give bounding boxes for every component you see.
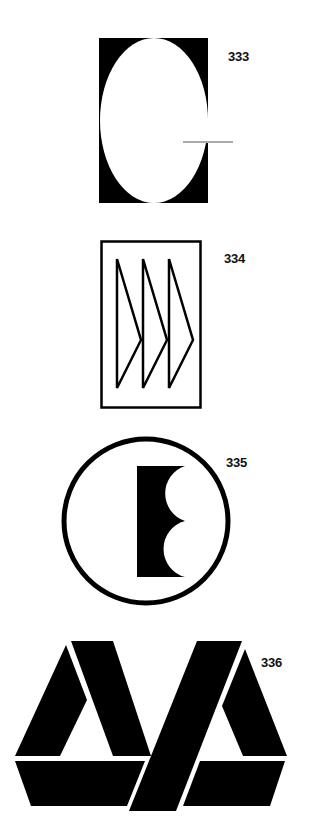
triple-arrow-icon [98, 238, 204, 410]
logo-number-334: 334 [224, 252, 245, 265]
logo-number-336: 336 [261, 656, 282, 669]
oval-in-rectangle-icon [95, 34, 240, 208]
logo-number-333: 333 [228, 50, 249, 63]
logo-number-335: 335 [226, 456, 247, 469]
logo-336 [10, 636, 295, 816]
logo-333 [95, 34, 240, 208]
interlocking-triangles-icon [10, 636, 295, 816]
circle-e-icon [58, 433, 236, 611]
logo-334 [98, 238, 204, 410]
logo-335 [58, 433, 236, 611]
